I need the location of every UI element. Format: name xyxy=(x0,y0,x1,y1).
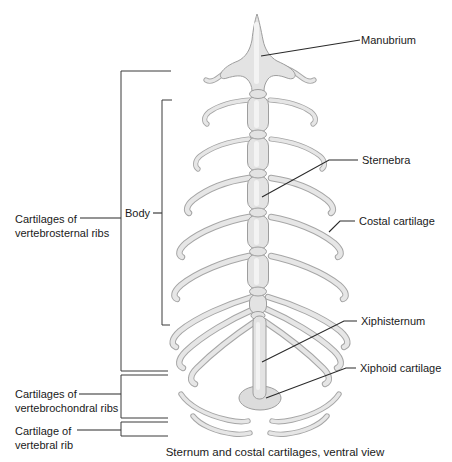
label-sternebra: Sternebra xyxy=(362,154,410,167)
leader-xiphoid-cartilage xyxy=(266,368,356,398)
label-xiphisternum: Xiphisternum xyxy=(361,315,425,328)
brackets xyxy=(121,71,172,436)
bracket-vertebral-rib xyxy=(121,422,168,436)
label-vertebral-rib: Cartilage of vertebral rib xyxy=(15,424,73,452)
bracket-body xyxy=(162,100,172,325)
label-line: vertebrochondral ribs xyxy=(15,401,118,415)
leader-manubrium xyxy=(261,40,360,56)
figure-caption: Sternum and costal cartilages, ventral v… xyxy=(166,446,385,458)
label-line: vertebral rib xyxy=(15,438,73,452)
bracket-vertebrosternal xyxy=(121,71,171,371)
costal-cartilages-left xyxy=(173,65,256,434)
label-manubrium: Manubrium xyxy=(361,34,416,47)
label-body: Body xyxy=(125,207,150,220)
costal-cartilages-right xyxy=(264,65,347,434)
bracket-vertebrochondral xyxy=(121,375,168,418)
anatomy-diagram: Manubrium Sternebra Costal cartilage Xip… xyxy=(0,0,452,462)
label-costal-cartilage: Costal cartilage xyxy=(359,215,435,228)
leader-costal-cartilage xyxy=(329,221,355,232)
label-line: Cartilages of xyxy=(15,212,109,226)
label-xiphoid-cartilage: Xiphoid cartilage xyxy=(360,362,441,375)
label-line: vertebrosternal ribs xyxy=(15,226,109,240)
label-line: Cartilage of xyxy=(15,424,73,438)
label-line: Cartilages of xyxy=(15,387,118,401)
label-vertebrochondral-ribs: Cartilages of vertebrochondral ribs xyxy=(15,387,118,415)
label-vertebrosternal-ribs: Cartilages of vertebrosternal ribs xyxy=(15,212,109,240)
